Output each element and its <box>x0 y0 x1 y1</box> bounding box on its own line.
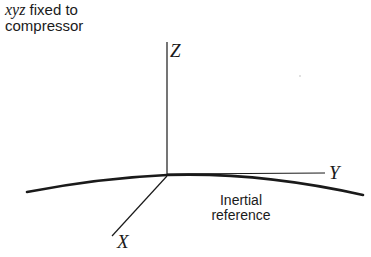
caption-line-2: compressor <box>5 18 83 34</box>
x-axis <box>112 176 167 236</box>
frame-caption: xyz fixed to compressor <box>5 2 83 34</box>
inertial-reference-label: Inertial reference <box>200 193 282 223</box>
x-axis-label: X <box>117 232 129 251</box>
caption-variables: xyz <box>5 1 25 18</box>
y-axis-label: Y <box>329 163 340 182</box>
z-axis-label: Z <box>170 41 181 60</box>
reference-line-1: Inertial <box>200 193 282 208</box>
reference-line-2: reference <box>200 208 282 223</box>
caption-line-1-text: fixed to <box>25 1 78 18</box>
speck-mark <box>299 75 301 77</box>
y-axis <box>167 173 325 174</box>
caption-line-1: xyz fixed to <box>5 2 83 18</box>
inertial-reference-curve <box>27 175 363 195</box>
coordinate-diagram <box>0 0 371 257</box>
